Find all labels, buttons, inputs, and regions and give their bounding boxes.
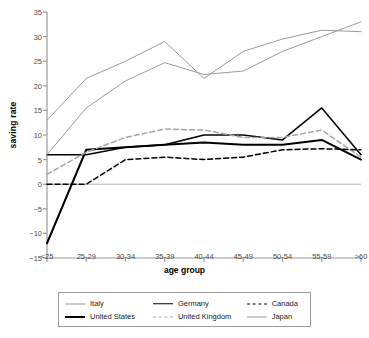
legend-item-canada[interactable]: Canada — [247, 299, 304, 308]
x-axis-tick-label: 30-34 — [116, 252, 135, 261]
x-axis-tick-labels: <2525-2930-3435-3940-4445-4950-5455-59>6… — [0, 252, 369, 266]
x-axis-tick-label: 35-39 — [155, 252, 174, 261]
plot-area — [0, 0, 369, 338]
legend-item-italy[interactable]: Italy — [65, 299, 153, 308]
legend-swatch-japan — [247, 313, 267, 321]
legend: Italy Germany Canada United States Unite… — [58, 292, 311, 327]
x-axis-tick-label: 45-49 — [234, 252, 253, 261]
legend-label-united-kingdom: United Kingdom — [178, 312, 231, 321]
x-axis-title: age group — [0, 265, 369, 275]
legend-row: Italy Germany Canada — [65, 297, 304, 310]
legend-swatch-united-kingdom — [153, 313, 173, 321]
legend-label-united-states: United States — [90, 312, 135, 321]
series-line-italy — [47, 30, 361, 120]
x-axis-tick-label: 55-59 — [312, 252, 331, 261]
legend-swatch-canada — [247, 300, 267, 308]
series-line-united-states — [47, 140, 361, 243]
legend-label-germany: Germany — [178, 299, 209, 308]
legend-swatch-united-states — [65, 313, 85, 321]
legend-label-canada: Canada — [272, 299, 298, 308]
saving-rate-line-chart: saving rate 35302520151050−5−10−15 <2525… — [0, 0, 369, 338]
legend-item-united-states[interactable]: United States — [65, 312, 153, 321]
series-line-united-kingdom — [47, 129, 361, 174]
x-axis-tick-label: >60 — [355, 252, 368, 261]
x-axis-tick-label: 25-29 — [77, 252, 96, 261]
series-line-canada — [47, 149, 361, 184]
legend-row: United States United Kingdom Japan — [65, 310, 304, 323]
legend-item-germany[interactable]: Germany — [153, 299, 247, 308]
legend-item-united-kingdom[interactable]: United Kingdom — [153, 312, 247, 321]
legend-label-italy: Italy — [90, 299, 104, 308]
x-axis-tick-label: 40-44 — [194, 252, 213, 261]
legend-swatch-germany — [153, 300, 173, 308]
x-axis-tick-label: <25 — [41, 252, 54, 261]
legend-swatch-italy — [65, 300, 85, 308]
legend-item-japan[interactable]: Japan — [247, 312, 304, 321]
x-axis-tick-label: 50-54 — [273, 252, 292, 261]
legend-label-japan: Japan — [272, 312, 292, 321]
